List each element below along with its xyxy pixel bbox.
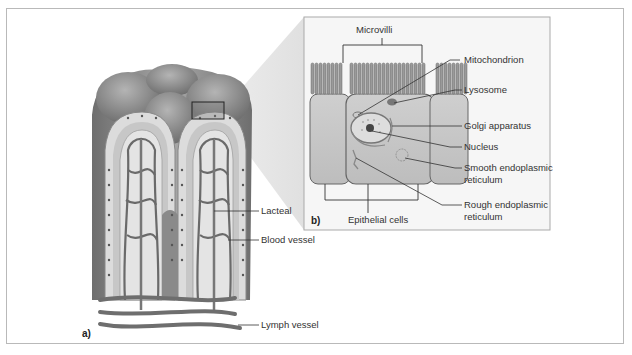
label-lymph-vessel: Lymph vessel	[261, 319, 319, 330]
panel-a-letter: a)	[82, 328, 91, 339]
label-rough-er-line1: Rough endoplasmic	[464, 199, 548, 210]
label-nucleus: Nucleus	[464, 141, 498, 152]
zoom-region-box	[192, 102, 224, 119]
label-smooth-er-line2: reticulum	[464, 174, 503, 185]
villus	[92, 64, 252, 328]
panel-b-letter: b)	[311, 215, 320, 226]
label-smooth-er-line1: Smooth endoplasmic	[464, 162, 553, 173]
label-blood-vessel: Blood vessel	[261, 234, 315, 245]
label-lysosome: Lysosome	[464, 84, 507, 95]
label-golgi-apparatus: Golgi apparatus	[464, 120, 531, 131]
label-epithelial-cells: Epithelial cells	[348, 214, 408, 225]
label-mitochondrion: Mitochondrion	[464, 54, 524, 65]
villus-illustration	[0, 0, 632, 355]
label-rough-er-line2: reticulum	[464, 211, 503, 222]
label-lacteal: Lacteal	[261, 205, 292, 216]
label-microvilli: Microvilli	[356, 24, 392, 35]
